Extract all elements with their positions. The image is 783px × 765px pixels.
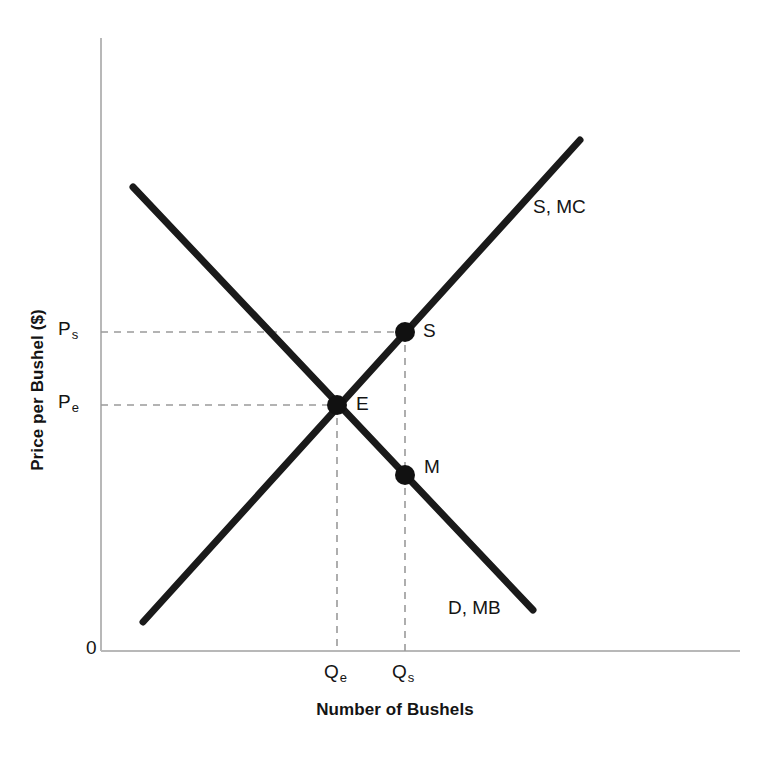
tick-label-quantity-supply: Qs — [392, 661, 413, 683]
tick-sub: e — [72, 400, 79, 415]
x-axis-title: Number of Bushels — [265, 700, 525, 720]
tick-sub: s — [72, 327, 79, 342]
marker-point-e — [327, 395, 347, 415]
point-label-e: E — [356, 393, 369, 415]
tick-label-quantity-equilibrium: Qe — [324, 661, 346, 683]
supply-curve — [143, 140, 580, 622]
tick-label-price-supply: Ps — [58, 318, 77, 340]
point-label-s: S — [423, 320, 436, 342]
tick-sub: s — [408, 670, 415, 685]
point-label-m: M — [424, 456, 440, 478]
curve-label-supply: S, MC — [533, 196, 586, 218]
tick-base: P — [58, 391, 71, 412]
tick-base: P — [58, 318, 71, 339]
y-axis-title: Price per Bushel ($) — [28, 290, 48, 490]
tick-label-price-equilibrium: Pe — [58, 391, 78, 413]
marker-point-m — [395, 465, 415, 485]
tick-base: Q — [324, 661, 339, 682]
tick-base: Q — [392, 661, 407, 682]
supply-demand-chart: Price per Bushel ($) Number of Bushels 0… — [0, 0, 783, 765]
tick-sub: e — [340, 670, 347, 685]
chart-plot-area — [0, 0, 783, 765]
origin-label: 0 — [86, 637, 97, 659]
marker-point-s — [395, 322, 415, 342]
curve-label-demand: D, MB — [448, 597, 501, 619]
